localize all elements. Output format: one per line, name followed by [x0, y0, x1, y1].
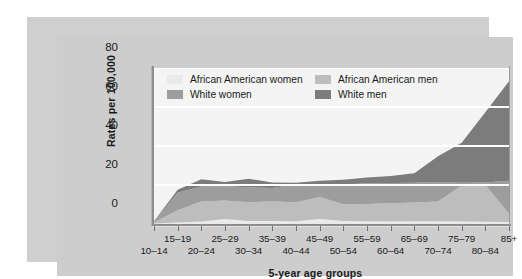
figure-panel: Rates per 100,000 80 60 40 20 0 [57, 37, 513, 276]
gridline-overlay [154, 106, 509, 108]
x-tick-label: 25–29 [205, 233, 245, 244]
x-tick-label: 50–54 [323, 245, 363, 256]
x-tick-mark [414, 226, 415, 231]
x-tick-mark [438, 226, 439, 231]
legend-item-african-american-women[interactable]: African American women [167, 74, 315, 85]
y-axis-line [152, 66, 154, 226]
x-tick-label: 35–39 [252, 233, 292, 244]
y-tick-label-80: 80 [96, 41, 118, 53]
x-tick-mark [343, 226, 344, 231]
legend-item-african-american-men[interactable]: African American men [315, 74, 463, 85]
x-tick-label: 40–44 [276, 245, 316, 256]
x-tick-label: 75–79 [442, 233, 482, 244]
x-tick-mark [249, 226, 250, 231]
x-tick-label: 80–84 [465, 245, 505, 256]
x-tick-label: 45–49 [300, 233, 340, 244]
x-tick-mark [296, 226, 297, 231]
y-tick-label-20: 20 [96, 158, 118, 170]
x-tick-mark [391, 226, 392, 231]
x-tick-label: 60–64 [371, 245, 411, 256]
x-tick-label: 30–34 [229, 245, 269, 256]
x-tick-mark [367, 226, 368, 231]
legend-label-african-american-men: African American men [338, 74, 438, 85]
x-tick-mark [178, 226, 179, 231]
legend-label-white-women: White women [190, 89, 252, 100]
x-tick-label: 55–59 [347, 233, 387, 244]
x-tick-mark [225, 226, 226, 231]
x-tick-label: 20–24 [181, 245, 221, 256]
x-tick-label: 10–14 [134, 245, 174, 256]
plot-right-edge [509, 66, 510, 226]
legend-swatch-white-men [315, 90, 331, 99]
legend-label-white-men: White men [338, 89, 387, 100]
gridline-overlay [154, 145, 509, 147]
x-tick-label: 65–69 [394, 233, 434, 244]
x-tick-mark [462, 226, 463, 231]
legend-swatch-african-american-women [167, 75, 183, 84]
x-axis-shadow [152, 226, 511, 227]
legend-item-white-women[interactable]: White women [167, 89, 315, 100]
y-tick-label-0: 0 [96, 197, 118, 209]
x-tick-label: 85+ [489, 233, 522, 244]
x-tick-mark [154, 226, 155, 231]
x-axis-title: 5-year age groups [57, 267, 522, 279]
y-tick-label-40: 40 [96, 119, 118, 131]
gridline-overlay [154, 68, 509, 69]
chart-legend: African American women African American … [167, 73, 467, 103]
x-tick-label: 70–74 [418, 245, 458, 256]
legend-row-1: African American women African American … [167, 73, 467, 86]
y-tick-label-60: 60 [96, 80, 118, 92]
legend-item-white-men[interactable]: White men [315, 89, 463, 100]
legend-swatch-african-american-men [315, 75, 331, 84]
x-tick-mark [201, 226, 202, 231]
legend-swatch-white-women [167, 90, 183, 99]
gridline-overlay [154, 184, 509, 186]
x-tick-mark [320, 226, 321, 231]
legend-row-2: White women White men [167, 88, 467, 101]
x-tick-mark [485, 226, 486, 231]
figure-panel-border: Rates per 100,000 80 60 40 20 0 [27, 17, 489, 262]
y-axis-title: Rates per 100,000 [105, 41, 117, 161]
x-tick-mark [509, 226, 510, 231]
x-tick-mark [272, 226, 273, 231]
legend-label-african-american-women: African American women [190, 74, 303, 85]
x-tick-label: 15–19 [158, 233, 198, 244]
